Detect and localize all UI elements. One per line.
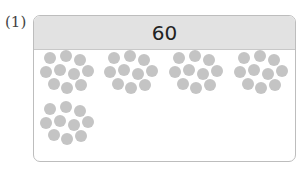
circle-icon xyxy=(61,133,73,145)
circle-icon xyxy=(268,54,280,66)
circle-icon xyxy=(169,66,181,78)
circle-icon xyxy=(255,82,267,94)
circle-icon xyxy=(68,119,80,131)
circle-icon xyxy=(48,129,60,141)
circle-icon xyxy=(40,66,52,78)
question-number: (1) xyxy=(5,13,26,31)
circle-icon xyxy=(54,64,66,76)
circle-icon xyxy=(44,103,56,115)
circle-icon xyxy=(190,82,202,94)
total-value: 60 xyxy=(152,21,177,45)
circle-icon xyxy=(139,79,151,91)
circle-icon xyxy=(68,68,80,80)
circle-icon xyxy=(48,78,60,90)
circle-icon xyxy=(197,68,209,80)
dot-group xyxy=(40,50,100,96)
counting-box: 60 xyxy=(33,15,296,162)
circle-icon xyxy=(74,54,86,66)
circle-icon xyxy=(118,64,130,76)
circle-icon xyxy=(238,52,250,64)
circle-icon xyxy=(108,52,120,64)
circle-icon xyxy=(54,115,66,127)
circle-icon xyxy=(204,79,216,91)
circle-icon xyxy=(211,65,223,77)
circle-icon xyxy=(276,65,288,77)
circle-icon xyxy=(254,50,266,62)
circle-icon xyxy=(138,54,150,66)
circle-icon xyxy=(248,64,260,76)
circle-icon xyxy=(269,79,281,91)
circle-icon xyxy=(183,64,195,76)
circle-icon xyxy=(234,66,246,78)
circle-icon xyxy=(132,68,144,80)
circle-icon xyxy=(75,130,87,142)
circle-icon xyxy=(173,52,185,64)
circle-icon xyxy=(242,78,254,90)
circle-icon xyxy=(262,68,274,80)
circle-icon xyxy=(82,116,94,128)
dot-group xyxy=(234,50,294,96)
circle-icon xyxy=(104,66,116,78)
circle-icon xyxy=(177,78,189,90)
dot-group xyxy=(104,50,164,96)
circle-icon xyxy=(125,82,137,94)
total-header: 60 xyxy=(34,16,295,50)
circle-icon xyxy=(60,101,72,113)
circle-icon xyxy=(44,52,56,64)
dot-group xyxy=(169,50,229,96)
dot-group xyxy=(40,101,100,147)
circle-icon xyxy=(112,78,124,90)
circle-icon xyxy=(189,50,201,62)
circle-icon xyxy=(75,79,87,91)
circle-icon xyxy=(203,54,215,66)
circle-icon xyxy=(82,65,94,77)
circle-icon xyxy=(60,50,72,62)
circle-icon xyxy=(146,65,158,77)
circle-icon xyxy=(124,50,136,62)
circle-icon xyxy=(40,117,52,129)
circle-icon xyxy=(74,105,86,117)
circle-icon xyxy=(61,82,73,94)
